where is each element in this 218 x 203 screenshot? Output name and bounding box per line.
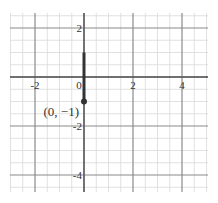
data-series (81, 53, 87, 105)
x-tick-label: 4 (179, 79, 185, 91)
endpoint-dot (81, 99, 87, 105)
x-tick-label: -2 (30, 79, 39, 91)
y-tick-label: -4 (73, 169, 83, 181)
x-tick-label: 2 (130, 79, 136, 91)
x-tick-label: 0 (76, 79, 82, 91)
y-tick-label: 2 (77, 22, 83, 34)
graph-plot: -20242-2-4 (0, −1) (0, 0, 218, 203)
point-label: (0, −1) (44, 104, 80, 119)
y-tick-label: -2 (73, 120, 82, 132)
minor-grid (10, 13, 208, 192)
annotations: (0, −1) (44, 104, 80, 119)
